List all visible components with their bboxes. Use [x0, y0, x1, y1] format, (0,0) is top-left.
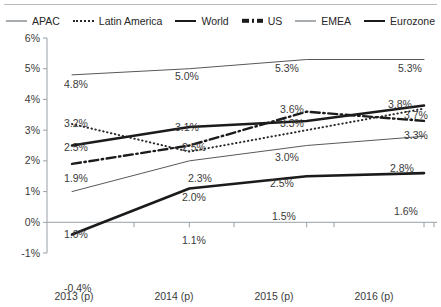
- data-point-label: 3.7%: [404, 110, 428, 121]
- data-point-label: -0.4%: [64, 283, 91, 294]
- data-point-label: 2.0%: [182, 192, 206, 203]
- y-axis-tick-label: 2%: [2, 155, 40, 166]
- y-axis-tick-label: 6%: [2, 33, 40, 44]
- legend-label: EMEA: [321, 16, 351, 27]
- data-point-label: 5.0%: [175, 71, 199, 82]
- chart-legend: APACLatin AmericaWorldUSEMEAEurozone: [0, 11, 441, 31]
- data-point-label: 2.5%: [64, 142, 88, 153]
- series-line-eurozone: [72, 173, 424, 234]
- legend-item-eurozone[interactable]: Eurozone: [364, 16, 435, 27]
- data-point-label: 3.3%: [280, 118, 304, 129]
- x-axis-tick-label: 2016 (p): [339, 291, 409, 302]
- legend-swatch-icon: [6, 18, 27, 25]
- legend-label: Latin America: [99, 16, 163, 27]
- data-point-label: 1.0%: [64, 229, 88, 240]
- legend-label: APAC: [32, 16, 60, 27]
- legend-swatch-icon: [242, 18, 263, 25]
- data-point-label: 5.3%: [398, 63, 422, 74]
- data-point-label: 5.3%: [275, 63, 299, 74]
- legend-item-emea[interactable]: EMEA: [295, 16, 351, 27]
- data-point-label: 1.6%: [394, 206, 418, 217]
- legend-label: World: [201, 16, 228, 27]
- data-point-label: 3.3%: [404, 130, 428, 141]
- data-point-label: 4.8%: [64, 79, 88, 90]
- y-axis-tick-label: 3%: [2, 125, 40, 136]
- series-line-apac: [72, 60, 424, 75]
- data-point-label: 2.5%: [270, 178, 294, 189]
- x-axis-tick-label: 2015 (p): [239, 291, 309, 302]
- y-axis-tick-label: 4%: [2, 94, 40, 105]
- data-point-label: 1.5%: [272, 211, 296, 222]
- x-axis-tick-label: 2014 (p): [139, 291, 209, 302]
- y-axis-tick-label: 0%: [2, 217, 40, 228]
- plot-area: [0, 30, 441, 280]
- data-point-label: 2.3%: [188, 173, 212, 184]
- data-point-label: 1.1%: [182, 235, 206, 246]
- legend-label: US: [268, 16, 283, 27]
- series-line-world: [72, 106, 424, 146]
- legend-swatch-icon: [364, 18, 385, 25]
- data-point-label: 3.6%: [280, 104, 304, 115]
- legend-item-latin-america[interactable]: Latin America: [73, 16, 163, 27]
- data-point-label: 3.0%: [275, 152, 299, 163]
- y-axis-tick-label: 5%: [2, 63, 40, 74]
- data-point-label: 3.2%: [64, 118, 88, 129]
- legend-label: Eurozone: [390, 16, 435, 27]
- data-point-label: 3.8%: [388, 99, 412, 110]
- chart-container: APACLatin AmericaWorldUSEMEAEurozone 6%5…: [0, 0, 441, 307]
- y-axis-tick-label: 1%: [2, 186, 40, 197]
- legend-swatch-icon: [175, 18, 196, 25]
- data-point-label: 2.8%: [390, 163, 414, 174]
- legend-swatch-icon: [73, 18, 94, 25]
- data-point-label: 3.1%: [175, 122, 199, 133]
- legend-swatch-icon: [295, 18, 316, 25]
- legend-item-us[interactable]: US: [242, 16, 283, 27]
- top-divider: [4, 4, 437, 5]
- y-axis-tick-label: -1%: [2, 248, 40, 259]
- data-point-label: 2.5%: [182, 142, 206, 153]
- series-line-latin-america: [72, 109, 424, 152]
- data-point-label: 1.9%: [64, 173, 88, 184]
- legend-item-apac[interactable]: APAC: [6, 16, 60, 27]
- line-chart-svg: [0, 30, 441, 280]
- legend-item-world[interactable]: World: [175, 16, 228, 27]
